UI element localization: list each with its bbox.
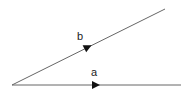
arrowhead-a-icon [92,81,100,89]
vector-b-label: b [77,30,83,42]
vector-diagram: a b [0,0,185,103]
arrowhead-b-icon [83,42,94,53]
vector-a-label: a [91,66,98,78]
